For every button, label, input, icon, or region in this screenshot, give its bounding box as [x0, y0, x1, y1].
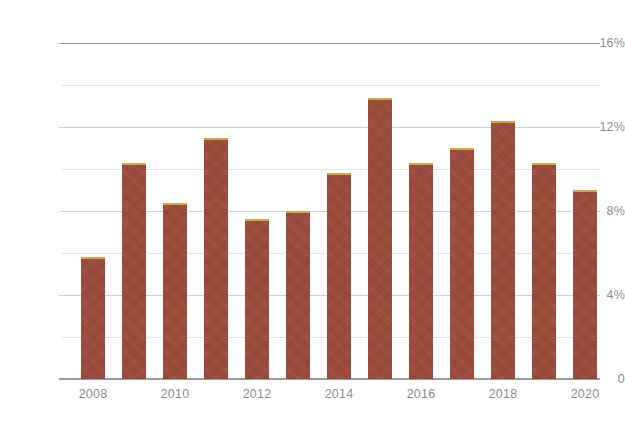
bar [245, 219, 269, 379]
gridline-major [59, 43, 600, 44]
bar-chart: 04%8%12%16% 2008201020122014201620182020 [0, 0, 625, 433]
bar [491, 121, 515, 379]
x-axis-tick-label: 2014 [299, 388, 379, 401]
x-axis-tick-label: 2012 [217, 388, 297, 401]
bar [450, 148, 474, 379]
gridline-major [59, 127, 600, 128]
bar [368, 98, 392, 379]
x-axis-tick-label: 2010 [135, 388, 215, 401]
x-axis-tick-label: 2008 [53, 388, 133, 401]
gridline-minor [62, 85, 600, 86]
bar [122, 163, 146, 379]
bar [204, 138, 228, 380]
bar [286, 211, 310, 379]
plot-area: 04%8%12%16% 2008201020122014201620182020 [0, 0, 625, 433]
bar [409, 163, 433, 379]
bar [532, 163, 556, 379]
bar [573, 190, 597, 379]
y-axis-tick-label: 12% [579, 121, 625, 134]
bar [163, 203, 187, 379]
y-axis-tick-label: 16% [579, 37, 625, 50]
bar [81, 257, 105, 379]
bar [327, 173, 351, 379]
x-axis-tick-label: 2020 [545, 388, 625, 401]
x-axis-tick-label: 2016 [381, 388, 461, 401]
x-axis-tick-label: 2018 [463, 388, 543, 401]
